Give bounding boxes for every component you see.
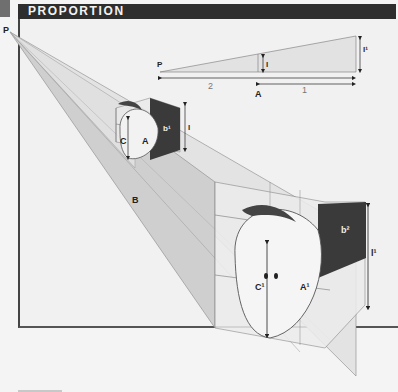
inset-ratio-triangle xyxy=(160,36,360,84)
inset-large-height-label: l¹ xyxy=(363,45,368,54)
far-right-label: A¹ xyxy=(300,282,310,292)
near-right-label: A xyxy=(142,136,149,146)
near-left-label: C xyxy=(120,136,127,146)
segment-1-label: 1 xyxy=(302,85,307,95)
near-object-box xyxy=(116,98,185,160)
inset-point-label: P xyxy=(157,60,163,69)
far-left-label: C¹ xyxy=(255,282,265,292)
far-height-label: l¹ xyxy=(371,248,377,258)
far-object-box xyxy=(215,182,368,348)
far-face-label: b² xyxy=(341,225,350,235)
near-face-label: b¹ xyxy=(163,124,171,133)
ground-label: B xyxy=(132,195,139,205)
inset-midpoint-label: A xyxy=(255,89,262,99)
near-height-label: l xyxy=(188,123,190,132)
inset-small-height-label: l xyxy=(266,60,268,69)
segment-2-label: 2 xyxy=(208,81,213,91)
vanishing-point-label: P xyxy=(3,25,9,35)
